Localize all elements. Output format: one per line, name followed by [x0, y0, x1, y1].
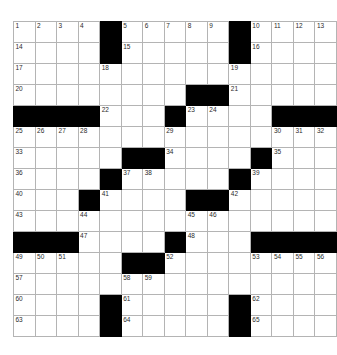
- crossword-cell[interactable]: 43: [14, 211, 36, 232]
- crossword-cell[interactable]: [100, 211, 122, 232]
- crossword-cell[interactable]: [186, 274, 208, 295]
- crossword-cell[interactable]: [143, 106, 165, 127]
- crossword-cell[interactable]: 41: [100, 190, 122, 211]
- crossword-cell[interactable]: [272, 169, 294, 190]
- crossword-cell[interactable]: 55: [293, 253, 315, 274]
- crossword-cell[interactable]: [293, 316, 315, 337]
- crossword-cell[interactable]: [250, 106, 272, 127]
- crossword-cell[interactable]: [293, 274, 315, 295]
- crossword-cell[interactable]: [78, 85, 100, 106]
- crossword-cell[interactable]: 8: [186, 22, 208, 43]
- crossword-cell[interactable]: [78, 253, 100, 274]
- crossword-cell[interactable]: 29: [164, 127, 186, 148]
- crossword-cell[interactable]: [78, 295, 100, 316]
- crossword-cell[interactable]: [293, 295, 315, 316]
- crossword-cell[interactable]: [272, 43, 294, 64]
- crossword-cell[interactable]: [35, 169, 57, 190]
- crossword-cell[interactable]: [35, 43, 57, 64]
- crossword-cell[interactable]: [293, 211, 315, 232]
- crossword-cell[interactable]: [143, 316, 165, 337]
- crossword-cell[interactable]: [121, 106, 143, 127]
- crossword-cell[interactable]: 50: [35, 253, 57, 274]
- crossword-cell[interactable]: 22: [100, 106, 122, 127]
- crossword-cell[interactable]: [164, 316, 186, 337]
- crossword-cell[interactable]: 12: [293, 22, 315, 43]
- crossword-cell[interactable]: [250, 211, 272, 232]
- crossword-cell[interactable]: [315, 148, 337, 169]
- crossword-cell[interactable]: [57, 148, 79, 169]
- crossword-cell[interactable]: [143, 232, 165, 253]
- crossword-cell[interactable]: [186, 148, 208, 169]
- crossword-cell[interactable]: 21: [229, 85, 251, 106]
- crossword-cell[interactable]: [121, 85, 143, 106]
- crossword-cell[interactable]: [143, 211, 165, 232]
- crossword-cell[interactable]: [57, 43, 79, 64]
- crossword-cell[interactable]: [35, 85, 57, 106]
- crossword-cell[interactable]: 64: [121, 316, 143, 337]
- crossword-cell[interactable]: [272, 64, 294, 85]
- crossword-cell[interactable]: [229, 106, 251, 127]
- crossword-cell[interactable]: [143, 295, 165, 316]
- crossword-cell[interactable]: [293, 169, 315, 190]
- crossword-cell[interactable]: [186, 253, 208, 274]
- crossword-cell[interactable]: 40: [14, 190, 36, 211]
- crossword-cell[interactable]: 20: [14, 85, 36, 106]
- crossword-cell[interactable]: [293, 190, 315, 211]
- crossword-cell[interactable]: [121, 127, 143, 148]
- crossword-cell[interactable]: 48: [186, 232, 208, 253]
- crossword-cell[interactable]: [100, 127, 122, 148]
- crossword-cell[interactable]: [143, 64, 165, 85]
- crossword-cell[interactable]: [35, 148, 57, 169]
- crossword-cell[interactable]: 5: [121, 22, 143, 43]
- crossword-cell[interactable]: [100, 148, 122, 169]
- crossword-cell[interactable]: 63: [14, 316, 36, 337]
- crossword-cell[interactable]: [35, 295, 57, 316]
- crossword-cell[interactable]: 16: [250, 43, 272, 64]
- crossword-cell[interactable]: 45: [186, 211, 208, 232]
- crossword-cell[interactable]: 44: [78, 211, 100, 232]
- crossword-cell[interactable]: 51: [57, 253, 79, 274]
- crossword-cell[interactable]: [229, 274, 251, 295]
- crossword-cell[interactable]: [272, 211, 294, 232]
- crossword-cell[interactable]: [315, 295, 337, 316]
- crossword-cell[interactable]: [121, 232, 143, 253]
- crossword-grid[interactable]: 1234567891011121314151617181920212223242…: [13, 21, 337, 337]
- crossword-cell[interactable]: [78, 316, 100, 337]
- crossword-cell[interactable]: 46: [207, 211, 229, 232]
- crossword-cell[interactable]: 19: [229, 64, 251, 85]
- crossword-cell[interactable]: 13: [315, 22, 337, 43]
- crossword-cell[interactable]: [57, 64, 79, 85]
- crossword-cell[interactable]: [315, 190, 337, 211]
- crossword-cell[interactable]: [143, 190, 165, 211]
- crossword-cell[interactable]: 28: [78, 127, 100, 148]
- crossword-cell[interactable]: [229, 148, 251, 169]
- crossword-cell[interactable]: [57, 211, 79, 232]
- crossword-cell[interactable]: 37: [121, 169, 143, 190]
- crossword-cell[interactable]: [121, 64, 143, 85]
- crossword-cell[interactable]: [186, 64, 208, 85]
- crossword-cell[interactable]: [143, 85, 165, 106]
- crossword-cell[interactable]: 47: [78, 232, 100, 253]
- crossword-cell[interactable]: [207, 295, 229, 316]
- crossword-cell[interactable]: [35, 316, 57, 337]
- crossword-cell[interactable]: [100, 232, 122, 253]
- crossword-cell[interactable]: [57, 316, 79, 337]
- crossword-cell[interactable]: [57, 274, 79, 295]
- crossword-cell[interactable]: 17: [14, 64, 36, 85]
- crossword-cell[interactable]: [78, 169, 100, 190]
- crossword-cell[interactable]: [164, 295, 186, 316]
- crossword-cell[interactable]: [186, 43, 208, 64]
- crossword-cell[interactable]: 53: [250, 253, 272, 274]
- crossword-cell[interactable]: [293, 43, 315, 64]
- crossword-cell[interactable]: 58: [121, 274, 143, 295]
- crossword-cell[interactable]: 32: [315, 127, 337, 148]
- crossword-cell[interactable]: 56: [315, 253, 337, 274]
- crossword-cell[interactable]: 34: [164, 148, 186, 169]
- crossword-cell[interactable]: 61: [121, 295, 143, 316]
- crossword-cell[interactable]: [164, 43, 186, 64]
- crossword-cell[interactable]: 11: [272, 22, 294, 43]
- crossword-cell[interactable]: [121, 190, 143, 211]
- crossword-cell[interactable]: 52: [164, 253, 186, 274]
- crossword-cell[interactable]: [35, 211, 57, 232]
- crossword-cell[interactable]: [164, 64, 186, 85]
